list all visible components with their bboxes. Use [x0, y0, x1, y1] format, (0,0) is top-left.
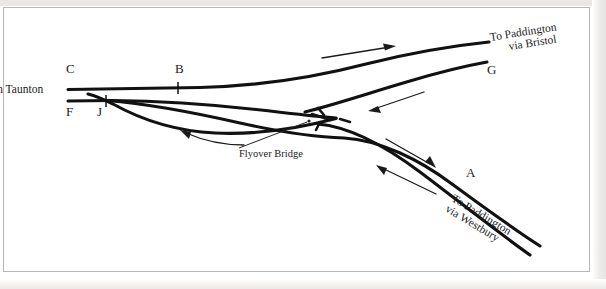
page-bottom-edge-shade: [0, 279, 606, 289]
label-node-a: A: [466, 166, 475, 180]
track-g-to-bristol: [305, 62, 487, 112]
label-node-c: C: [66, 62, 75, 76]
switch-blade-right: [340, 119, 350, 122]
label-node-g: G: [487, 63, 496, 77]
flow-arrow-eastbound-bristol: [322, 44, 396, 59]
flow-arrow-westbound-from-westbury: [376, 165, 436, 194]
label-node-b: B: [175, 62, 184, 76]
label-node-f: F: [66, 105, 73, 119]
page-right-edge-shade: [592, 0, 606, 289]
label-origin-from-taunton: m Taunton: [0, 83, 43, 95]
flow-arrow-westbound-from-bristol: [368, 92, 424, 113]
diagram-page: m Taunton C B F J G A To Paddington via …: [0, 0, 606, 289]
page-top-edge-shade: [0, 0, 606, 6]
label-node-j: J: [97, 105, 102, 119]
label-flyover-bridge: Flyover Bridge: [239, 148, 303, 159]
track-c-to-bristol: [68, 42, 489, 90]
